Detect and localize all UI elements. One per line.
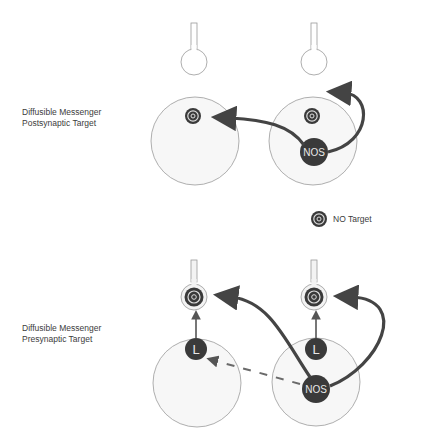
- no-target-icon: [304, 108, 320, 124]
- svg-text:NOS: NOS: [305, 384, 327, 395]
- legend-label: NO Target: [333, 214, 372, 224]
- panel-label-line1: Diffusible Messenger: [22, 107, 101, 118]
- presynaptic-terminal-right: [301, 260, 327, 310]
- l-node: L: [305, 338, 327, 360]
- nos-node: NOS: [300, 138, 328, 166]
- nos-node: NOS: [302, 375, 330, 403]
- svg-text:L: L: [192, 342, 199, 357]
- presynaptic-terminal-right: [301, 23, 327, 75]
- panel-label-line2: Postsynaptic Target: [22, 118, 101, 129]
- panel-label-line2: Presynaptic Target: [22, 334, 101, 345]
- no-target-icon: [310, 210, 328, 228]
- svg-text:NOS: NOS: [303, 147, 325, 158]
- presynaptic-terminal-left: [181, 260, 207, 310]
- legend: NO Target: [310, 210, 372, 228]
- no-target-icon: [185, 108, 201, 124]
- panel-label-postsynaptic: Diffusible Messenger Postsynaptic Target: [22, 107, 101, 129]
- svg-text:L: L: [312, 342, 319, 357]
- panel-label-presynaptic: Diffusible Messenger Presynaptic Target: [22, 323, 101, 345]
- presynaptic-terminal-left: [181, 23, 207, 75]
- panel-label-line1: Diffusible Messenger: [22, 323, 101, 334]
- l-node: L: [185, 338, 207, 360]
